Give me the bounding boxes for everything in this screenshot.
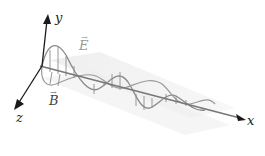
z-axis-label: z <box>16 110 23 125</box>
x-axis-label: x <box>247 113 254 128</box>
z-axis <box>18 66 42 104</box>
b-field-label: B <box>49 93 59 108</box>
wave-figure <box>0 0 265 156</box>
z-axis-arrowhead <box>14 99 24 110</box>
x-axis-arrowhead <box>236 114 246 121</box>
y-axis-arrowhead <box>43 14 51 24</box>
e-field-label: E <box>79 38 89 53</box>
em-wave-diagram: y x z → E → B <box>0 0 265 156</box>
y-axis-label: y <box>55 10 62 25</box>
